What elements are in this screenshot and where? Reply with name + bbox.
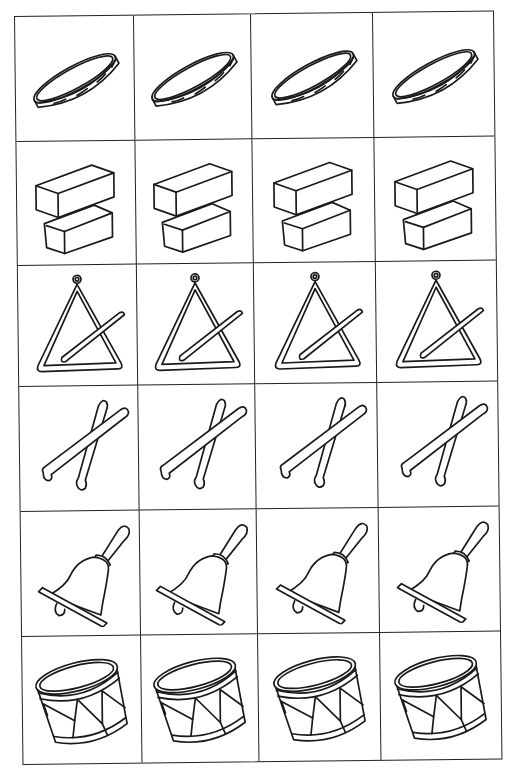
grid-cell-drum: Drum bbox=[258, 633, 381, 761]
tambourine-icon bbox=[258, 21, 367, 130]
drum-icon bbox=[265, 642, 374, 751]
tambourine-icon bbox=[379, 20, 488, 129]
tambourine-icon bbox=[138, 22, 247, 131]
drumsticks-icon bbox=[24, 394, 133, 503]
grid-cell-drum: Drum bbox=[141, 634, 259, 762]
grid-cell-tambourine: Tambourine bbox=[15, 16, 135, 142]
grid-cell-hand-bell: Hand bell bbox=[379, 507, 500, 633]
grid-cell-triangle: Triangle bbox=[18, 265, 138, 387]
wood-blocks-icon bbox=[22, 148, 131, 257]
grid-cell-drum: Drum bbox=[380, 632, 501, 760]
grid-cell-wood-blocks: Wood blocks bbox=[374, 137, 495, 262]
triangle-icon bbox=[382, 267, 491, 376]
instrument-grid: TambourineTambourineTambourineTambourine… bbox=[14, 11, 502, 765]
grid-cell-triangle: Triangle bbox=[254, 262, 377, 384]
drumsticks-icon bbox=[142, 392, 251, 501]
grid-cell-hand-bell: Hand bell bbox=[21, 511, 141, 637]
grid-cell-wood-blocks: Wood blocks bbox=[252, 138, 375, 263]
grid-cell-drumsticks: Drumsticks bbox=[138, 384, 256, 510]
drumsticks-icon bbox=[383, 390, 492, 499]
grid-cell-drumsticks: Drumsticks bbox=[19, 386, 139, 512]
grid-cell-wood-blocks: Wood blocks bbox=[16, 141, 136, 266]
grid-cell-drumsticks: Drumsticks bbox=[377, 382, 498, 508]
triangle-icon bbox=[260, 268, 369, 377]
grid-cell-hand-bell: Hand bell bbox=[140, 509, 258, 635]
grid-cell-drumsticks: Drumsticks bbox=[255, 383, 378, 509]
drumsticks-icon bbox=[262, 391, 371, 500]
wood-blocks-icon bbox=[259, 146, 368, 255]
hand-bell-icon bbox=[26, 519, 135, 628]
grid-cell-tambourine: Tambourine bbox=[373, 12, 494, 138]
triangle-icon bbox=[23, 271, 132, 380]
grid-cell-tambourine: Tambourine bbox=[134, 14, 252, 140]
grid-cell-triangle: Triangle bbox=[376, 261, 497, 383]
drum-icon bbox=[386, 641, 495, 750]
hand-bell-icon bbox=[263, 516, 372, 625]
hand-bell-icon bbox=[385, 515, 494, 624]
grid-cell-drum: Drum bbox=[22, 636, 142, 764]
tambourine-icon bbox=[20, 24, 129, 133]
drum-icon bbox=[145, 644, 254, 753]
grid-cell-wood-blocks: Wood blocks bbox=[135, 139, 253, 264]
grid-cell-hand-bell: Hand bell bbox=[257, 508, 380, 634]
wood-blocks-icon bbox=[140, 147, 249, 256]
grid-cell-tambourine: Tambourine bbox=[251, 13, 374, 139]
triangle-icon bbox=[141, 269, 250, 378]
drum-icon bbox=[27, 645, 136, 754]
wood-blocks-icon bbox=[380, 144, 489, 253]
grid-cell-triangle: Triangle bbox=[137, 263, 255, 385]
hand-bell-icon bbox=[144, 517, 253, 626]
